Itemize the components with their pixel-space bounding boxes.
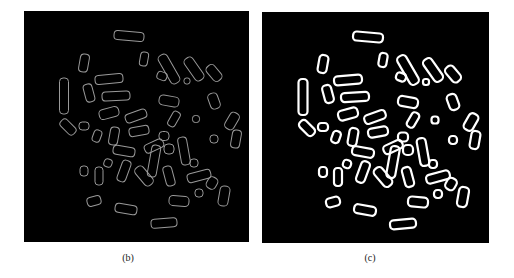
panel-c-image [262, 12, 489, 243]
caption-c: (c) [350, 252, 390, 263]
chromosome-outlines-c [262, 12, 489, 243]
caption-b: (b) [108, 252, 148, 263]
panel-b-image [24, 11, 249, 242]
chromosome-outlines-b [24, 11, 249, 242]
